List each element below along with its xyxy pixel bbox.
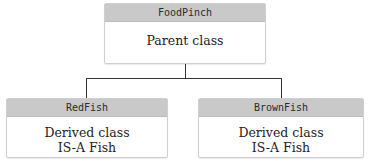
- derived-class-name: RedFish: [7, 99, 167, 117]
- derived-class-description: Derived class IS-A Fish: [7, 117, 167, 155]
- description-line-1: Derived class: [199, 125, 363, 140]
- derived-class-name: BrownFish: [199, 99, 363, 117]
- parent-class-description: Parent class: [105, 22, 265, 48]
- connector-right-drop: [281, 78, 282, 98]
- parent-class-box: FoodPinch Parent class: [104, 3, 266, 64]
- description-line-2: IS-A Fish: [199, 140, 363, 155]
- connector-parent-stem: [185, 64, 186, 78]
- connector-left-drop: [86, 78, 87, 98]
- derived-class-description: Derived class IS-A Fish: [199, 117, 363, 155]
- parent-class-name: FoodPinch: [105, 4, 265, 22]
- connector-horizontal: [86, 78, 282, 79]
- derived-class-box-brownfish: BrownFish Derived class IS-A Fish: [198, 98, 364, 158]
- derived-class-box-redfish: RedFish Derived class IS-A Fish: [6, 98, 168, 158]
- description-line-1: Derived class: [7, 125, 167, 140]
- description-line-2: IS-A Fish: [7, 140, 167, 155]
